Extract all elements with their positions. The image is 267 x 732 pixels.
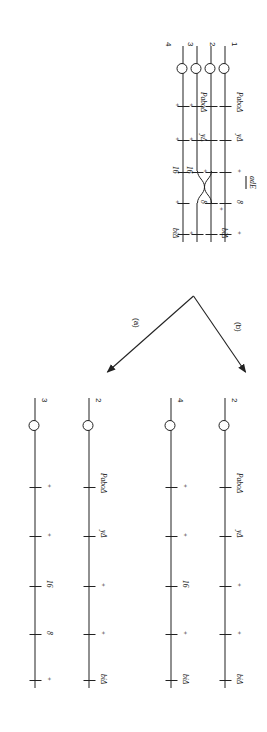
- product-a-chromatid-2-centromere: [83, 420, 94, 431]
- product-b-c4-locus-bi-tick: [165, 680, 177, 681]
- product-a-c3-locus-8-tick: [29, 634, 41, 635]
- product-a-c2-locus-p1-tick: [83, 586, 95, 587]
- product-a-c2-locus-y: yΔ: [98, 530, 106, 538]
- figure-canvas: 1 PaboΔ yΔ + 8 + adE 2 PaboΔ yΔ + 8 +: [0, 0, 267, 732]
- product-b-c2-locus-pabo: PaboΔ: [234, 473, 242, 493]
- product-a-c3-locus-p3-tick: [29, 680, 41, 681]
- product-a-c3-locus-p1: +: [44, 484, 51, 488]
- product-a-chromatid-2-number: 2: [93, 398, 101, 402]
- product-b-c4-locus-p1: +: [180, 484, 187, 488]
- product-b-c4-locus-16: 16: [180, 580, 188, 588]
- product-b-chromatid-2-centromere: [219, 420, 230, 431]
- product-b-c2-locus-pabo-tick: [219, 487, 231, 488]
- product-b-c2-locus-p1: +: [234, 583, 241, 587]
- product-a-chromatid-3-centromere: [29, 420, 40, 431]
- product-a-c2-locus-bi: biΔ: [98, 674, 106, 684]
- product-a-c3-locus-16: 16: [44, 580, 52, 588]
- product-b-c2-locus-bi: biΔ: [234, 674, 242, 684]
- product-b-chromatid-2-number: 2: [229, 398, 237, 402]
- product-a-c3-locus-p3: +: [44, 677, 51, 681]
- product-b-chromatid-4-centromere: [165, 420, 176, 431]
- product-b-chromatid-4-number: 4: [175, 398, 183, 402]
- product-b-c4-locus-p3: +: [180, 631, 187, 635]
- branch-label-a: (a): [131, 318, 139, 328]
- product-b-c4-locus-p2: +: [180, 533, 187, 537]
- product-b-c4-locus-16-tick: [165, 586, 177, 587]
- product-b-c2-locus-p1-tick: [219, 586, 231, 587]
- product-a-c3-locus-p1-tick: [29, 487, 41, 488]
- product-b-chromatid-2-line: [224, 398, 225, 688]
- product-b-c4-locus-p3-tick: [165, 634, 177, 635]
- product-b-c2-locus-p2-tick: [219, 634, 231, 635]
- product-a-chromatid-3-number: 3: [39, 398, 47, 402]
- branch-arrows: [0, 0, 267, 732]
- product-a-chromatid-2-line: [88, 398, 89, 688]
- product-a-c2-locus-pabo: PaboΔ: [98, 473, 106, 493]
- product-a-c2-locus-y-tick: [83, 536, 95, 537]
- product-a-c2-locus-p2-tick: [83, 634, 95, 635]
- product-a-c2-locus-pabo-tick: [83, 487, 95, 488]
- product-a-c3-locus-8: 8: [44, 631, 52, 635]
- product-b-c4-locus-bi: biΔ: [180, 674, 188, 684]
- product-b-c4-locus-p2-tick: [165, 536, 177, 537]
- product-a-c2-locus-p2: +: [98, 631, 105, 635]
- product-b-c2-locus-y-tick: [219, 536, 231, 537]
- branch-label-b: (b): [233, 322, 241, 332]
- product-b-chromatid-4-line: [170, 398, 171, 688]
- product-a-c3-locus-p2-tick: [29, 536, 41, 537]
- product-b-c2-locus-y: yΔ: [234, 530, 242, 538]
- product-a-c2-locus-p1: +: [98, 583, 105, 587]
- product-a-c3-locus-p2: +: [44, 533, 51, 537]
- product-a-c3-locus-16-tick: [29, 586, 41, 587]
- product-b-c2-locus-bi-tick: [219, 680, 231, 681]
- product-a-c2-locus-bi-tick: [83, 680, 95, 681]
- product-b-c4-locus-p1-tick: [165, 487, 177, 488]
- product-a-chromatid-3-line: [34, 398, 35, 688]
- product-b-c2-locus-p2: +: [234, 631, 241, 635]
